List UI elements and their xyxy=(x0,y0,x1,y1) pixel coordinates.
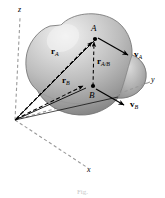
vector-label-rB-sub: B xyxy=(66,80,70,86)
vector-label-rA-sub: A xyxy=(55,51,59,57)
point-label-A: A xyxy=(91,24,97,33)
vector-label-vB: vB xyxy=(130,100,138,110)
vector-label-rB: rB xyxy=(62,76,70,86)
figure-rigid-body-kinematics: z y x A B rA rB rA/B vA vB Fig. xyxy=(0,0,165,198)
axis-label-z: z xyxy=(18,6,21,14)
point-marker-A xyxy=(93,37,97,41)
vector-label-vA: vA xyxy=(134,50,142,60)
vector-label-vA-sub: A xyxy=(139,54,143,60)
vector-label-vB-sub: B xyxy=(135,104,139,110)
point-label-B: B xyxy=(89,91,95,100)
diagram-canvas xyxy=(0,0,165,198)
vector-label-rAB: rA/B xyxy=(97,57,110,67)
axis-label-y: y xyxy=(151,76,155,84)
rigid-body-shape xyxy=(26,14,146,115)
axis-z xyxy=(15,18,20,120)
point-marker-B xyxy=(91,84,95,88)
axis-label-x: x xyxy=(87,166,91,174)
vector-label-rA: rA xyxy=(51,47,59,57)
figure-caption: Fig. xyxy=(0,188,165,196)
vector-label-rAB-sub: A/B xyxy=(101,61,110,67)
axis-x xyxy=(15,120,88,168)
